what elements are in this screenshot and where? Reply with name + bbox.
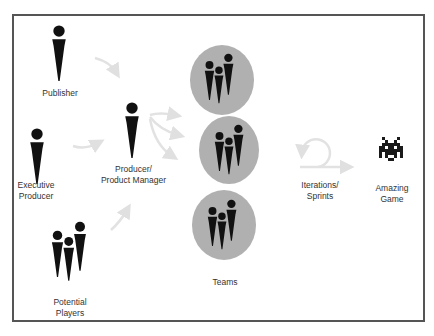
producer-person-icon xyxy=(125,102,139,158)
executive-producer-label: Executive Producer xyxy=(6,180,66,202)
loop-arrow-icon xyxy=(300,139,347,167)
team-circle-icon xyxy=(192,190,256,260)
arrow-producer-to-team-1 xyxy=(150,114,175,116)
team-circle-icon xyxy=(190,45,254,115)
arrow-executive-to-producer xyxy=(73,143,98,147)
producer-label: Producer/ Product Manager xyxy=(96,164,171,186)
flow-arrows xyxy=(73,58,178,230)
arrow-players-to-producer xyxy=(111,210,127,230)
potential-players-group-icon xyxy=(52,222,86,281)
space-invader-icon xyxy=(379,137,403,161)
executive-producer-person-icon xyxy=(30,128,44,184)
iterations-label: Iterations/ Sprints xyxy=(290,180,350,202)
arrow-producer-to-team-3 xyxy=(150,119,172,156)
team-circle-icon xyxy=(199,116,259,184)
arrow-publisher-to-producer xyxy=(95,58,116,72)
publisher-label: Publisher xyxy=(30,88,90,99)
game-label: Amazing Game xyxy=(362,183,422,205)
teams-label: Teams xyxy=(200,277,250,288)
publisher-person-icon xyxy=(52,25,66,81)
potential-players-label: Potential Players xyxy=(40,297,100,319)
